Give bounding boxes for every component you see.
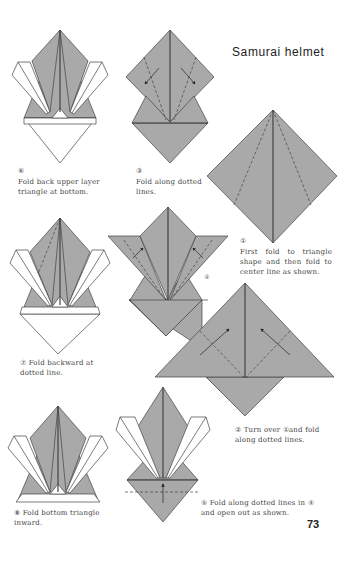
step-1-number: ① <box>240 236 332 246</box>
origami-diagrams <box>0 0 352 561</box>
diagram-step-3 <box>126 30 214 163</box>
step-8-number: ⑧ <box>14 509 20 517</box>
step-2-caption-block: ② Turn over ①and fold along dotted lines… <box>235 425 335 445</box>
step-4-number: ④ <box>203 273 211 281</box>
step-7-number: ⑦ <box>20 359 26 367</box>
step-6-caption-block: ⑥ Fold back upper layer triangle at bott… <box>18 166 118 197</box>
step-5-number: ⑤ <box>201 499 207 507</box>
step-7-caption-block: ⑦ Fold backward at dotted line. <box>20 358 110 378</box>
step-8-caption-block: ⑧ Fold bottom triangle inward. <box>14 508 114 528</box>
diagram-step-5 <box>116 387 210 522</box>
diagram-step-6 <box>12 30 108 163</box>
step-7-caption: Fold backward at dotted line. <box>20 359 94 377</box>
step-5-caption: Fold along dotted lines in ④ and open ou… <box>201 499 314 517</box>
diagram-step-7 <box>10 218 110 354</box>
step-3-number: ③ <box>136 166 206 176</box>
step-3-caption: Fold along dotted lines. <box>136 178 202 196</box>
step-3-caption-block: ③ Fold along dotted lines. <box>136 166 206 197</box>
diagram-step-8 <box>8 406 108 502</box>
instruction-page: Samurai helmet ⑥ Fold back upper layer t… <box>0 0 352 561</box>
diagram-step-1 <box>207 110 337 243</box>
page-number: 73 <box>307 518 319 530</box>
step-6-caption: Fold back upper layer triangle at bottom… <box>18 178 100 196</box>
page-title: Samurai helmet <box>232 45 324 59</box>
step-6-number: ⑥ <box>18 166 118 176</box>
step-8-caption: Fold bottom triangle inward. <box>14 509 100 527</box>
step-1-caption-block: ① First fold to triangle shape and then … <box>240 236 332 277</box>
step-1-caption: First fold to triangle shape and then fo… <box>240 248 332 276</box>
step-5-caption-block: ⑤ Fold along dotted lines in ④ and open … <box>201 498 326 518</box>
step-2-number: ② <box>235 426 241 434</box>
step-2-caption: Turn over ①and fold along dotted lines. <box>235 426 320 444</box>
